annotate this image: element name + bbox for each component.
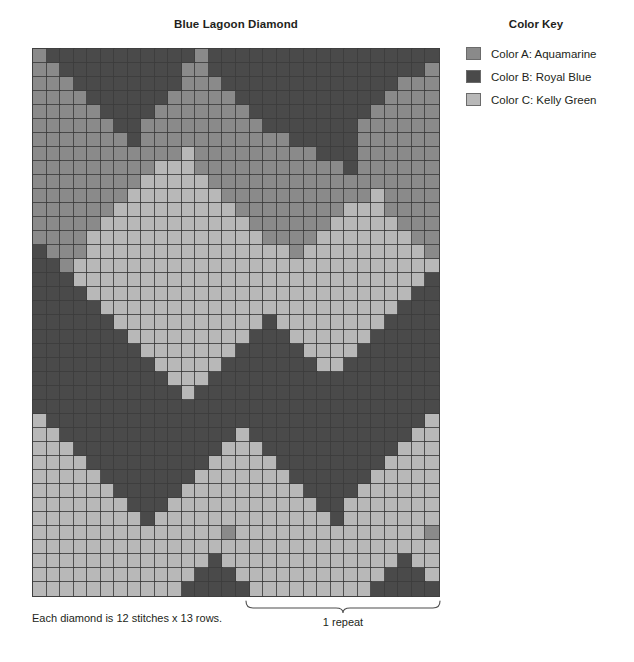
chart-cell (425, 372, 439, 386)
chart-cell (128, 400, 142, 414)
chart-cell (33, 484, 47, 498)
chart-cell (250, 470, 264, 484)
chart-cell (128, 273, 142, 287)
chart-cell (33, 582, 47, 596)
chart-cell (87, 386, 101, 400)
chart-cell (128, 386, 142, 400)
chart-cell (344, 119, 358, 133)
chart-cell (358, 49, 372, 63)
chart-cell (250, 484, 264, 498)
chart-cell (277, 147, 291, 161)
chart-cell (168, 582, 182, 596)
chart-cell (250, 540, 264, 554)
chart-cell (222, 344, 236, 358)
chart-cell (344, 554, 358, 568)
chart-cell (371, 358, 385, 372)
chart-cell (47, 273, 61, 287)
chart-cell (128, 77, 142, 91)
chart-cell (33, 344, 47, 358)
chart-cell (331, 372, 345, 386)
chart-cell (155, 301, 169, 315)
chart-cell (344, 315, 358, 329)
chart-cell (371, 414, 385, 428)
chart-cell (317, 91, 331, 105)
chart-cell (182, 498, 196, 512)
chart-cell (263, 540, 277, 554)
chart-cell (74, 344, 88, 358)
chart-cell (317, 231, 331, 245)
chart-cell (250, 512, 264, 526)
chart-cell (304, 554, 318, 568)
chart-cell (412, 470, 426, 484)
chart-cell (317, 147, 331, 161)
chart-cell (141, 315, 155, 329)
chart-cell (385, 287, 399, 301)
chart-cell (412, 105, 426, 119)
chart-cell (128, 161, 142, 175)
chart-cell (398, 442, 412, 456)
chart-cell (371, 344, 385, 358)
chart-cell (141, 456, 155, 470)
chart-cell (74, 259, 88, 273)
chart-cell (114, 161, 128, 175)
chart-cell (47, 582, 61, 596)
chart-cell (317, 330, 331, 344)
chart-cell (277, 498, 291, 512)
chart-cell (128, 442, 142, 456)
chart-cell (385, 512, 399, 526)
chart-cell (182, 554, 196, 568)
chart-cell (385, 91, 399, 105)
chart-cell (168, 63, 182, 77)
chart-cell (222, 189, 236, 203)
chart-cell (168, 301, 182, 315)
chart-cell (317, 133, 331, 147)
chart-cell (182, 301, 196, 315)
chart-cell (101, 372, 115, 386)
chart-cell (304, 512, 318, 526)
chart-cell (236, 217, 250, 231)
chart-cell (114, 414, 128, 428)
chart-cell (317, 568, 331, 582)
chart-cell (60, 203, 74, 217)
chart-cell (33, 91, 47, 105)
chart-cell (60, 315, 74, 329)
chart-cell (290, 372, 304, 386)
chart-cell (263, 259, 277, 273)
chart-cell (47, 428, 61, 442)
chart-cell (87, 273, 101, 287)
chart-cell (87, 428, 101, 442)
chart-cell (344, 400, 358, 414)
chart-cell (155, 582, 169, 596)
chart-cell (33, 554, 47, 568)
chart-cell (236, 189, 250, 203)
chart-cell (74, 63, 88, 77)
chart-cell (195, 245, 209, 259)
chart-cell (344, 526, 358, 540)
chart-cell (358, 400, 372, 414)
chart-cell (277, 203, 291, 217)
chart-cell (168, 470, 182, 484)
chart-cell (74, 414, 88, 428)
chart-cell (290, 484, 304, 498)
chart-cell (317, 161, 331, 175)
chart-cell (182, 512, 196, 526)
chart-cell (358, 540, 372, 554)
chart-cell (331, 175, 345, 189)
chart-cell (101, 63, 115, 77)
chart-cell (114, 147, 128, 161)
chart-cell (182, 133, 196, 147)
chart-cell (371, 231, 385, 245)
chart-cell (168, 456, 182, 470)
chart-cell (290, 386, 304, 400)
chart-cell (168, 203, 182, 217)
chart-cell (358, 161, 372, 175)
chart-cell (195, 77, 209, 91)
chart-cell (195, 456, 209, 470)
chart-cell (317, 203, 331, 217)
chart-cell (33, 245, 47, 259)
chart-cell (74, 119, 88, 133)
chart-cell (331, 245, 345, 259)
chart-cell (331, 133, 345, 147)
chart-cell (74, 133, 88, 147)
chart-cell (60, 119, 74, 133)
